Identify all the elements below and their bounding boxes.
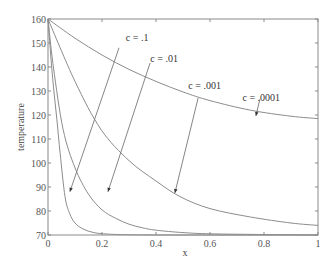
- x-tick-label: 0.8: [258, 238, 271, 249]
- y-tick-label: 130: [31, 86, 46, 97]
- x-tick-label: 0.6: [204, 238, 217, 249]
- x-tick-label: 0: [46, 238, 51, 249]
- y-tick-labels: 708090100110120130140150160: [31, 14, 46, 241]
- annotations: c = .1c = .01c = .001c = .0001: [69, 32, 280, 193]
- annotation-arrowhead-c-1: [69, 187, 72, 191]
- series-line-c-01: [48, 19, 318, 235]
- y-tick-label: 140: [31, 62, 46, 73]
- y-tick-label: 150: [31, 38, 46, 49]
- annotation-label-c-01: c = .01: [150, 53, 178, 64]
- y-tick-label: 90: [36, 182, 46, 193]
- chart: 00.20.40.60.81 7080901001101201301401501…: [0, 0, 335, 268]
- y-tick-label: 160: [31, 14, 46, 25]
- x-axis-label: x: [183, 247, 188, 258]
- annotation-arrow-c-001: [175, 98, 198, 193]
- series-line-c-0001: [48, 19, 318, 119]
- plot-frame: [48, 19, 318, 235]
- annotation-arrow-c-1: [70, 48, 119, 192]
- x-tick-label: 0.2: [96, 238, 109, 249]
- annotation-arrowhead-c-01: [107, 187, 110, 191]
- y-tick-label: 110: [31, 134, 46, 145]
- annotation-label-c-001: c = .001: [188, 80, 221, 91]
- y-tick-label: 120: [31, 110, 46, 121]
- axis-ticks: [48, 19, 318, 235]
- series-line-c-1: [48, 19, 318, 235]
- x-tick-label: 0.4: [150, 238, 163, 249]
- y-axis-label: temperature: [15, 103, 26, 151]
- x-tick-label: 1: [316, 238, 321, 249]
- annotation-label-c-1: c = .1: [126, 32, 149, 43]
- y-tick-label: 70: [36, 230, 46, 241]
- series-lines: [48, 19, 318, 235]
- annotation-label-c-0001: c = .0001: [243, 92, 281, 103]
- y-tick-label: 80: [36, 206, 46, 217]
- y-tick-label: 100: [31, 158, 46, 169]
